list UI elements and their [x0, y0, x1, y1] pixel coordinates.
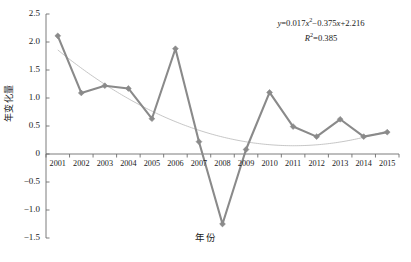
y-axis-tick-label: −1.5 [10, 232, 40, 242]
data-point-marker [384, 129, 390, 135]
y-axis-tick-label: 2.5 [10, 8, 40, 18]
y-axis-tick-label: 1.0 [10, 92, 40, 102]
y-axis-tick-label: 0 [10, 148, 40, 158]
x-axis-tick-label: 2015 [373, 159, 401, 168]
y-axis-tick-label: 2.0 [10, 36, 40, 46]
y-axis-tick-label: −1.0 [10, 204, 40, 214]
data-point-marker [78, 90, 84, 96]
series-line [58, 36, 387, 224]
y-axis-tick-label: 0.5 [10, 120, 40, 130]
data-series-layer [55, 33, 390, 227]
y-axis-tick-label: −0.5 [10, 176, 40, 186]
data-point-marker [102, 83, 108, 89]
y-axis-tick-label: 1.5 [10, 64, 40, 74]
data-point-marker [220, 221, 226, 227]
trendline-layer [58, 50, 387, 146]
data-point-marker [173, 46, 179, 52]
data-point-marker [55, 33, 61, 39]
data-point-marker [243, 147, 249, 153]
data-point-marker [196, 139, 202, 145]
plot-area [0, 0, 411, 262]
axes-layer [46, 14, 399, 238]
chart-container: 年变化量 年份 y=0.017x2−0.375x+2.216 R2=0.385 … [0, 0, 411, 262]
